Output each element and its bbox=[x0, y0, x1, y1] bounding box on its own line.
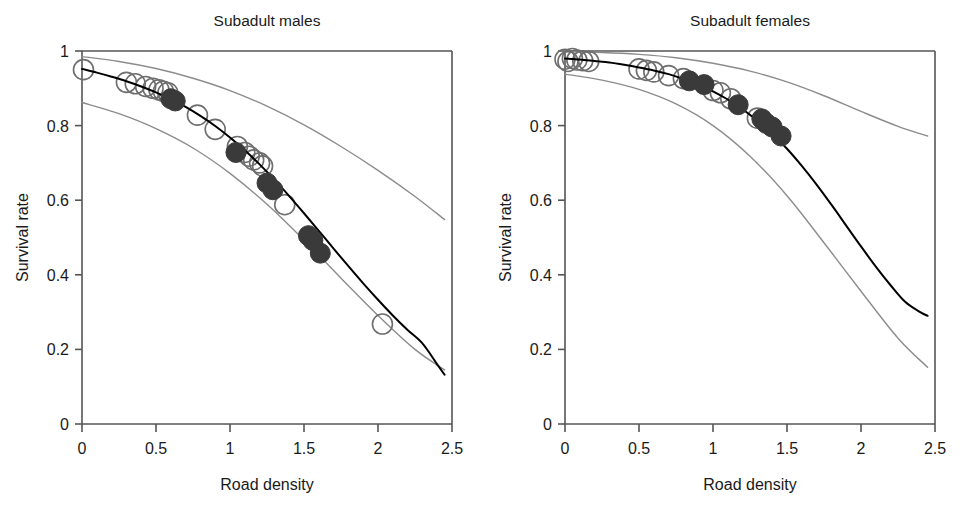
panel-left-svg: Subadult males00.20.40.60.8100.511.522.5… bbox=[0, 0, 482, 505]
x-tick-label: 2.5 bbox=[924, 440, 946, 457]
x-tick-label: 0 bbox=[561, 440, 570, 457]
x-tick-label: 1 bbox=[709, 440, 718, 457]
survival-rate-figure: Subadult males00.20.40.60.8100.511.522.5… bbox=[0, 0, 965, 505]
y-tick-label: 0 bbox=[543, 416, 552, 433]
data-point-filled bbox=[226, 142, 246, 162]
chart-panel-subadult-males: Subadult males00.20.40.60.8100.511.522.5… bbox=[0, 0, 482, 505]
fitted-survival-curve bbox=[565, 58, 928, 315]
data-point-filled bbox=[165, 91, 185, 111]
data-point-filled bbox=[694, 75, 714, 95]
panel-right-svg: Subadult females00.20.40.60.8100.511.522… bbox=[483, 0, 965, 505]
x-tick-label: 2 bbox=[857, 440, 866, 457]
y-tick-label: 0.8 bbox=[530, 118, 552, 135]
x-tick-label: 1.5 bbox=[293, 440, 315, 457]
x-tick-label: 0.5 bbox=[628, 440, 650, 457]
x-tick-label: 2.5 bbox=[441, 440, 463, 457]
y-tick-label: 0.4 bbox=[530, 267, 552, 284]
data-point-open bbox=[372, 314, 392, 334]
panel-right-content: Subadult females00.20.40.60.8100.511.522… bbox=[497, 12, 946, 493]
x-tick-label: 1.5 bbox=[776, 440, 798, 457]
chart-panel-subadult-females: Subadult females00.20.40.60.8100.511.522… bbox=[483, 0, 965, 505]
y-tick-label: 0.6 bbox=[47, 192, 69, 209]
confidence-limit-curve bbox=[565, 74, 928, 367]
y-tick-label: 0 bbox=[60, 416, 69, 433]
x-tick-label: 1 bbox=[226, 440, 235, 457]
y-tick-label: 0.2 bbox=[47, 341, 69, 358]
data-point-open bbox=[205, 119, 225, 139]
panel-title: Subadult males bbox=[214, 12, 321, 29]
x-tick-label: 0 bbox=[78, 440, 87, 457]
x-axis-label: Road density bbox=[220, 476, 313, 493]
data-point-filled bbox=[263, 180, 283, 200]
y-tick-label: 0.2 bbox=[530, 341, 552, 358]
fitted-survival-curve bbox=[82, 69, 445, 375]
data-point-filled bbox=[310, 243, 330, 263]
panel-left-content: Subadult males00.20.40.60.8100.511.522.5… bbox=[14, 12, 463, 493]
y-axis-label: Survival rate bbox=[14, 193, 31, 282]
y-axis-label: Survival rate bbox=[497, 193, 514, 282]
y-tick-label: 1 bbox=[543, 43, 552, 60]
y-tick-label: 1 bbox=[60, 43, 69, 60]
data-point-filled bbox=[771, 126, 791, 146]
y-tick-label: 0.6 bbox=[530, 192, 552, 209]
x-tick-label: 0.5 bbox=[145, 440, 167, 457]
data-point-filled bbox=[728, 95, 748, 115]
y-tick-label: 0.8 bbox=[47, 118, 69, 135]
panel-title: Subadult females bbox=[690, 12, 810, 29]
x-axis-label: Road density bbox=[703, 476, 796, 493]
y-tick-label: 0.4 bbox=[47, 267, 69, 284]
x-tick-label: 2 bbox=[374, 440, 383, 457]
